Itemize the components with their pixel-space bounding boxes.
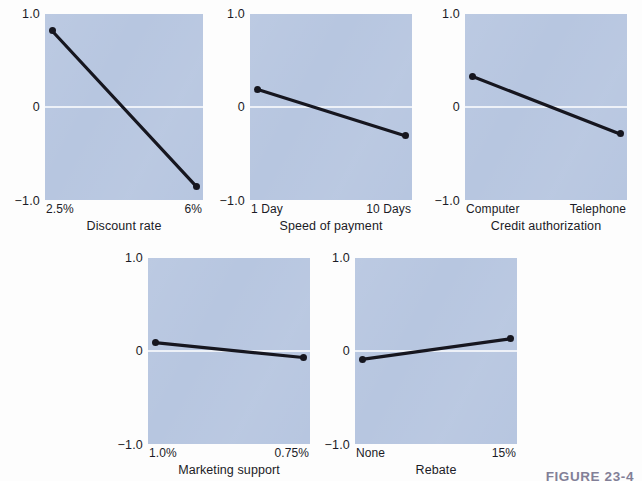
data-point-marker — [300, 354, 307, 361]
y-tick-top: 1.0 — [22, 8, 40, 21]
y-tick-bottom: −1.0 — [435, 195, 460, 208]
data-point-marker — [193, 183, 200, 190]
x-tick-right: 15% — [492, 447, 516, 460]
x-axis-title: Rebate — [416, 464, 457, 478]
x-axis-title: Marketing support — [178, 464, 280, 478]
x-axis-title: Credit authorization — [491, 220, 601, 234]
data-point-marker — [254, 86, 261, 93]
effect-line — [257, 89, 405, 136]
series-line-svg — [355, 258, 517, 444]
y-tick-top: 1.0 — [332, 252, 350, 265]
panel-discount-rate: 1.0 0 −1.0 2.5% 6% Discount rate — [45, 14, 203, 200]
effect-line — [155, 343, 303, 358]
x-tick-right: 6% — [184, 203, 202, 216]
data-point-marker — [507, 335, 514, 342]
y-tick-bottom: −1.0 — [15, 195, 40, 208]
y-tick-zero: 0 — [33, 101, 40, 114]
y-tick-top: 1.0 — [442, 8, 460, 21]
x-tick-left: 2.5% — [46, 203, 74, 216]
panel-speed-of-payment: 1.0 0 −1.0 1 Day 10 Days Speed of paymen… — [250, 14, 412, 200]
y-tick-zero: 0 — [238, 101, 245, 114]
y-tick-top: 1.0 — [125, 252, 143, 265]
data-point-marker — [402, 132, 409, 139]
x-tick-left: 1 Day — [251, 203, 283, 216]
y-tick-bottom: −1.0 — [325, 439, 350, 452]
data-point-marker — [152, 339, 159, 346]
data-point-marker — [359, 356, 366, 363]
x-tick-left: None — [356, 447, 385, 460]
effect-line — [472, 76, 620, 134]
x-tick-right: 0.75% — [274, 447, 309, 460]
series-line-svg — [465, 14, 627, 200]
y-tick-bottom: −1.0 — [118, 439, 143, 452]
figure-caption: FIGURE 23-4 — [546, 469, 634, 481]
series-line-svg — [148, 258, 310, 444]
y-tick-zero: 0 — [343, 345, 350, 358]
y-tick-bottom: −1.0 — [220, 195, 245, 208]
effect-line — [362, 339, 510, 359]
x-tick-left: Computer — [466, 203, 520, 216]
data-point-marker — [49, 27, 56, 34]
panel-credit-authorization: 1.0 0 −1.0 Computer Telephone Credit aut… — [465, 14, 627, 200]
x-tick-left: 1.0% — [149, 447, 177, 460]
y-tick-zero: 0 — [453, 101, 460, 114]
series-line-svg — [45, 14, 203, 200]
x-axis-title: Discount rate — [87, 220, 162, 234]
x-tick-right: 10 Days — [366, 203, 411, 216]
x-tick-right: Telephone — [570, 203, 626, 216]
y-tick-zero: 0 — [136, 345, 143, 358]
x-axis-title: Speed of payment — [279, 220, 382, 234]
series-line-svg — [250, 14, 412, 200]
effect-line — [52, 31, 196, 186]
data-point-marker — [469, 73, 476, 80]
panel-marketing-support: 1.0 0 −1.0 1.0% 0.75% Marketing support — [148, 258, 310, 444]
y-tick-top: 1.0 — [227, 8, 245, 21]
panel-rebate: 1.0 0 −1.0 None 15% Rebate — [355, 258, 517, 444]
figure-root: 1.0 0 −1.0 2.5% 6% Discount rate 1.0 0 −… — [0, 0, 642, 481]
